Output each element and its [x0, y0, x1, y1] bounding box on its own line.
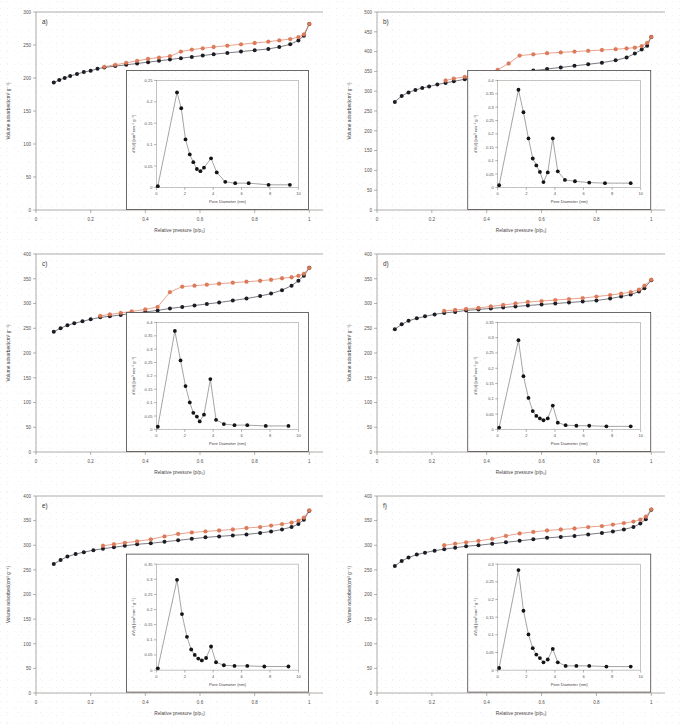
data-point [518, 532, 522, 536]
chart-a: 05010015020025030000.20.40.60.81Relative… [0, 0, 341, 242]
panel-letter: f) [383, 502, 387, 510]
data-point [633, 52, 637, 56]
data-point [489, 305, 493, 309]
psd-data-point [185, 635, 189, 639]
data-point [258, 279, 262, 283]
y-tick-label: 150 [23, 376, 31, 381]
data-point [545, 529, 549, 533]
data-point [190, 537, 194, 541]
psd-data-point [629, 181, 633, 185]
psd-data-point [534, 414, 538, 418]
data-point [269, 292, 273, 296]
data-point [96, 67, 100, 71]
inset-y-tick-label: 0.2 [147, 373, 153, 378]
data-point [433, 312, 437, 316]
inset-x-axis-title: Pore Diameter (nm) [209, 441, 246, 446]
psd-data-point [564, 664, 568, 668]
y-tick-label: 50 [367, 425, 373, 430]
data-point [231, 533, 235, 537]
psd-data-point [497, 426, 501, 430]
data-point [258, 531, 262, 535]
inset-y-tick-label: 0.35 [145, 562, 154, 567]
chart-d: 05010015020025030035040000.20.40.60.81Re… [341, 242, 683, 484]
x-tick-label: 0.8 [593, 217, 600, 222]
data-point [477, 306, 481, 310]
data-point [608, 293, 612, 297]
data-point [586, 532, 590, 536]
y-tick-label: 100 [364, 642, 372, 647]
data-point [157, 56, 161, 60]
series-desorption-line [444, 509, 651, 545]
x-tick-label: 0.6 [197, 217, 204, 222]
psd-data-point [189, 648, 193, 652]
data-point [258, 294, 262, 298]
data-point [302, 33, 306, 37]
data-point [245, 526, 249, 530]
psd-data-point [179, 358, 183, 362]
y-tick-label: 0 [369, 450, 372, 455]
psd-data-point [179, 106, 183, 110]
data-point [442, 309, 446, 313]
x-tick-label: 0 [35, 700, 38, 705]
psd-data-point [497, 666, 501, 670]
inset-y-tick-label: 0.3 [488, 105, 494, 110]
x-tick-label: 0.8 [251, 700, 258, 705]
data-point [423, 314, 427, 318]
data-point [518, 54, 522, 58]
psd-data-point [603, 181, 607, 185]
y-tick-label: 300 [23, 543, 31, 548]
psd-data-point [556, 421, 560, 425]
y-tick-label: 200 [23, 351, 31, 356]
data-point [545, 536, 549, 540]
inset-panel [468, 70, 651, 209]
data-point [633, 46, 637, 50]
data-point [518, 539, 522, 543]
inset-y-tick-label: 0.2 [147, 99, 153, 104]
data-point [52, 81, 56, 85]
data-point [290, 275, 294, 279]
psd-data-point [522, 609, 526, 613]
inset-y-tick-label: 0.1 [147, 142, 153, 147]
inset-panel [126, 70, 308, 209]
psd-data-point [287, 424, 291, 428]
data-point [581, 300, 585, 304]
data-point [119, 311, 123, 315]
data-point [504, 540, 508, 544]
psd-data-point [551, 404, 555, 408]
data-point [205, 283, 209, 287]
panel-a: 05010015020025030000.20.40.60.81Relative… [0, 0, 341, 242]
x-tick-label: 0.6 [538, 700, 545, 705]
data-point [501, 303, 505, 307]
x-tick-label: 0.2 [87, 459, 94, 464]
data-point [244, 297, 248, 301]
data-point [645, 41, 649, 45]
psd-data-point [551, 137, 555, 141]
x-tick-label: 1 [650, 459, 653, 464]
y-axis-title: Volume adsorbed(cm³ g⁻¹) [347, 324, 352, 382]
psd-data-point [629, 424, 633, 428]
x-tick-label: 0.4 [142, 700, 149, 705]
x-tick-label: 0.8 [593, 700, 600, 705]
y-tick-label: 400 [364, 49, 372, 54]
y-tick-label: 250 [23, 43, 31, 48]
inset-y-tick-label: 0.1 [488, 396, 494, 401]
inset-x-axis-title: Pore Diameter (nm) [209, 682, 246, 687]
data-point [102, 65, 106, 69]
y-axis-title: Volume adsorbed(cm³ g⁻¹) [6, 82, 11, 140]
inset-y-axis-title: dV(d) [cm³ nm⁻¹ g⁻¹] [131, 598, 136, 636]
psd-data-point [605, 424, 609, 428]
data-point [239, 42, 243, 46]
psd-data-point [542, 418, 546, 422]
psd-data-point [156, 184, 160, 188]
data-point [190, 48, 194, 52]
panel-letter: b) [383, 18, 389, 26]
panel-d: 05010015020025030035040000.20.40.60.81Re… [341, 242, 683, 484]
data-point [113, 63, 117, 67]
psd-data-point [551, 647, 555, 651]
x-tick-label: 0.6 [197, 700, 204, 705]
data-point [124, 61, 128, 65]
data-point [201, 54, 205, 58]
data-point [280, 522, 284, 526]
inset-y-tick-label: 0.15 [145, 121, 154, 126]
psd-data-point [173, 329, 177, 333]
